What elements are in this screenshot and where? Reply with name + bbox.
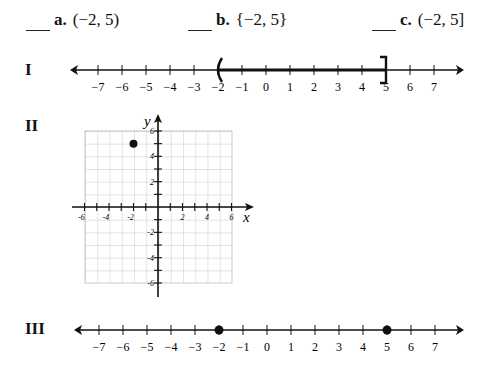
tick-label: −2 — [212, 80, 225, 94]
figures-canvas: −7−6−5−4−3−2−101234567 -6-4-2246642-2-4-… — [0, 0, 492, 375]
tick-label: −1 — [237, 340, 250, 354]
tick-label: −1 — [236, 80, 249, 94]
number-line-III: −7−6−5−4−3−2−101234567 — [74, 325, 464, 354]
tick-label: 1 — [288, 340, 294, 354]
tick-label: 1 — [287, 80, 293, 94]
tick-label: 5 — [384, 340, 390, 354]
tick-label: 0 — [264, 340, 270, 354]
plotted-point — [383, 326, 392, 335]
tick-label: −3 — [188, 80, 201, 94]
tick-label: 6 — [407, 80, 413, 94]
tick-label: −4 — [165, 340, 178, 354]
tick-label: −5 — [140, 80, 153, 94]
y-tick-label: -4 — [147, 254, 154, 263]
x-tick-label: 4 — [205, 213, 209, 222]
tick-label: −3 — [189, 340, 202, 354]
x-tick-label: -2 — [127, 213, 134, 222]
tick-label: −7 — [93, 340, 106, 354]
plotted-point — [215, 326, 224, 335]
tick-label: −6 — [116, 80, 129, 94]
x-tick-label: 6 — [230, 213, 234, 222]
x-axis-label: x — [242, 209, 250, 225]
tick-label: 3 — [336, 340, 342, 354]
tick-label: 6 — [408, 340, 414, 354]
tick-label: 3 — [335, 80, 341, 94]
y-tick-label: -6 — [147, 279, 154, 288]
x-tick-label: 2 — [181, 213, 185, 222]
y-tick-label: 4 — [150, 152, 154, 161]
tick-label: 4 — [359, 80, 365, 94]
coordinate-plane-II: -6-4-2246642-2-4-6xy — [72, 113, 254, 297]
plotted-point — [130, 140, 138, 148]
tick-label: 7 — [431, 80, 437, 94]
number-line-I: −7−6−5−4−3−2−101234567 — [70, 57, 464, 94]
y-axis-label: y — [142, 113, 151, 129]
tick-label: −4 — [164, 80, 177, 94]
tick-label: −2 — [213, 340, 226, 354]
tick-label: 2 — [312, 340, 318, 354]
tick-label: 4 — [360, 340, 366, 354]
tick-label: −6 — [117, 340, 130, 354]
tick-label: 2 — [311, 80, 317, 94]
tick-label: 7 — [432, 340, 438, 354]
x-tick-label: -6 — [78, 213, 85, 222]
tick-label: 0 — [263, 80, 269, 94]
y-tick-label: -2 — [147, 228, 154, 237]
x-tick-label: -4 — [103, 213, 110, 222]
tick-label: −7 — [92, 80, 105, 94]
y-tick-label: 2 — [150, 178, 154, 187]
tick-label: −5 — [141, 340, 154, 354]
